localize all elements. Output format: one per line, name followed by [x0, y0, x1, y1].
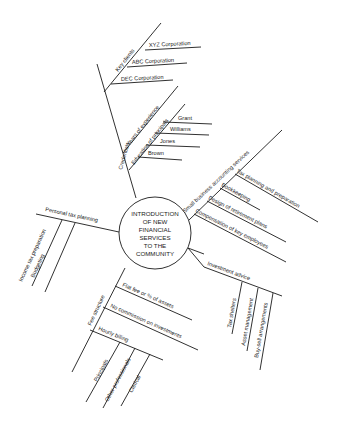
center-line-2: OF NEW	[143, 218, 168, 225]
hourly-item-1: Principals	[93, 358, 110, 382]
branch-credentials: Credentials Key clients XYZ Corporation …	[97, 23, 212, 198]
branch-personal-tax: Personal tax planning Income tax prepara…	[17, 206, 119, 292]
branch-investment: Investment advice Tax shelters Asset man…	[188, 248, 282, 370]
education-item-1: Grant	[178, 115, 192, 121]
branch-fee-structure: Fee structure Flat fee or % of assets No…	[72, 268, 198, 408]
investment-item-1: Tax shelters	[226, 298, 237, 329]
center-node: INTRODUCTION OF NEW FINANCIAL SERVICES T…	[119, 197, 191, 269]
fee-item-1: Flat fee or % of assets	[122, 281, 175, 309]
key-client-1: XYZ Corporation	[149, 40, 191, 48]
education-item-3: Jones	[160, 138, 175, 144]
small-business-item-2: Bookkeeping	[221, 182, 252, 203]
center-line-3: FINANCIAL	[139, 226, 172, 233]
center-line-1: INTRODUCTION	[131, 210, 178, 217]
hourly-billing-label: Hourly billing	[98, 325, 130, 343]
branch-small-business: Small business accounting services Tax p…	[182, 130, 318, 262]
center-line-4: SERVICES	[139, 234, 170, 241]
fee-structure-label: Fee structure	[86, 294, 105, 326]
center-line-5: TO THE	[144, 242, 166, 249]
center-line-6: COMMUNITY	[136, 250, 174, 257]
key-client-2: ABC Corporation	[132, 57, 175, 65]
education-item-4: Brown	[148, 150, 164, 156]
small-business-item-1: Tax planning and preparation	[236, 168, 301, 209]
small-business-item-3: Design of retirement plans	[208, 195, 269, 230]
years-experience-label: Years of experience	[125, 104, 160, 147]
education-item-2: Williams	[170, 126, 191, 132]
hourly-item-3: Clerical	[128, 374, 142, 393]
mind-map: INTRODUCTION OF NEW FINANCIAL SERVICES T…	[0, 0, 337, 431]
personal-tax-label: Personal tax planning	[45, 206, 99, 223]
